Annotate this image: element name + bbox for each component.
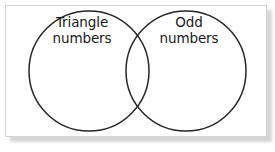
set-label-left-line2: numbers	[32, 30, 132, 46]
set-label-right-line1: Odd	[139, 14, 239, 30]
venn-diagram-figure: Triangle numbers Odd numbers	[0, 0, 275, 152]
set-label-left-line1: Triangle	[32, 14, 132, 30]
set-label-left: Triangle numbers	[32, 14, 132, 46]
set-label-right: Odd numbers	[139, 14, 239, 46]
set-label-right-line2: numbers	[139, 30, 239, 46]
